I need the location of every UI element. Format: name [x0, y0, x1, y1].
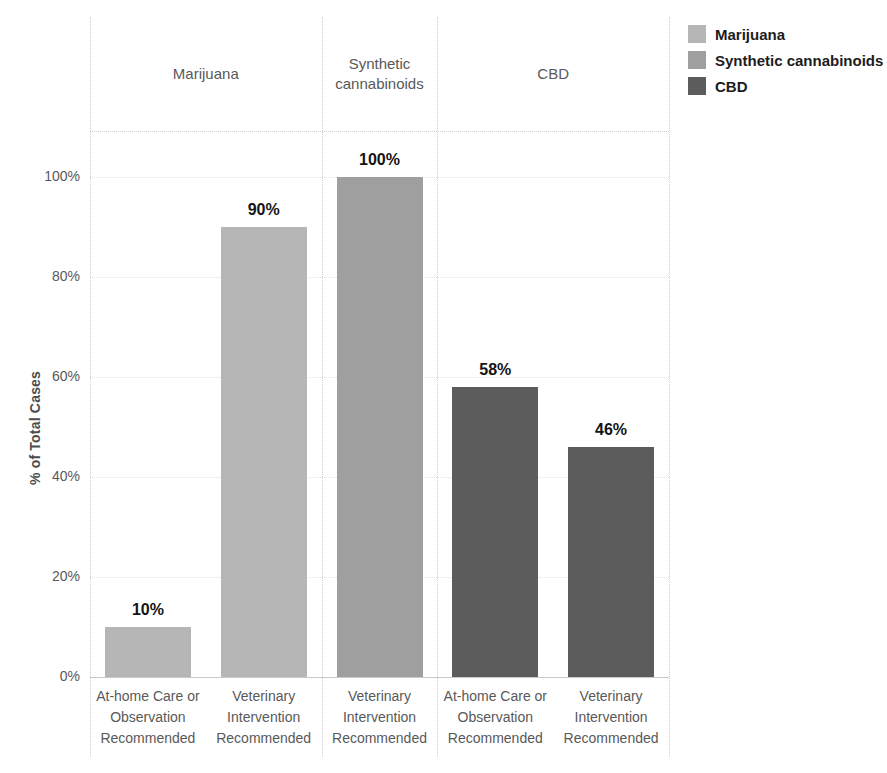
legend-swatch-cbd [688, 77, 706, 95]
x-axis-category-label: Veterinary Intervention Recommended [320, 686, 440, 749]
legend-label: Marijuana [715, 26, 785, 43]
legend-label: Synthetic cannabinoids [715, 52, 883, 69]
bar-cbd-1 [452, 387, 538, 677]
y-axis-tick-label: 100% [28, 168, 80, 184]
legend-item-cbd: CBD [688, 77, 883, 95]
y-axis-tick-label: 80% [28, 268, 80, 284]
legend: Marijuana Synthetic cannabinoids CBD [688, 25, 883, 95]
y-axis-tick-label: 0% [28, 668, 80, 684]
y-axis-tick-label: 60% [28, 368, 80, 384]
bar-value-label: 58% [437, 361, 553, 379]
panel-border [669, 17, 670, 757]
legend-item-synthetic-cannabinoids: Synthetic cannabinoids [688, 51, 883, 69]
legend-swatch-synthetic-cannabinoids [688, 51, 706, 69]
header-band-divider-line [90, 131, 669, 132]
bar-chart-figure: % of Total Cases Marijuana Synthetic can… [0, 0, 887, 773]
bar-cbd-2 [568, 447, 654, 677]
legend-label: CBD [715, 78, 748, 95]
legend-swatch-marijuana [688, 25, 706, 43]
bar-value-label: 90% [206, 201, 322, 219]
bar-marijuana-2 [221, 227, 307, 677]
bar-value-label: 100% [322, 151, 438, 169]
y-axis-tick-label: 40% [28, 468, 80, 484]
x-axis-category-label: Veterinary Intervention Recommended [204, 686, 324, 749]
legend-item-marijuana: Marijuana [688, 25, 883, 43]
x-axis-category-label: At-home Care or Observation Recommended [435, 686, 555, 749]
bar-synthetic-cannabinoids-1 [337, 177, 423, 677]
x-axis-line [90, 677, 669, 678]
x-axis-category-label: Veterinary Intervention Recommended [551, 686, 671, 749]
panel-header-cbd: CBD [437, 17, 669, 131]
panel-header-marijuana: Marijuana [90, 17, 322, 131]
bar-marijuana-1 [105, 627, 191, 677]
panel-header-synthetic-cannabinoids: Synthetic cannabinoids [322, 17, 438, 131]
x-axis-category-label: At-home Care or Observation Recommended [88, 686, 208, 749]
y-axis-tick-label: 20% [28, 568, 80, 584]
bar-value-label: 10% [90, 601, 206, 619]
bar-value-label: 46% [553, 421, 669, 439]
